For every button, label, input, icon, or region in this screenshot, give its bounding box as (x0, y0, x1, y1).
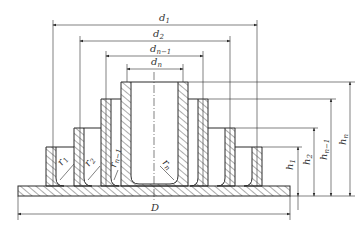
label-D: D (150, 202, 159, 213)
stepped-cup-drawing: d1 d2 dn−1 dn D h1 h2 hn−1 hn r1 r2 rn−1… (0, 0, 362, 234)
label-rn: rn (159, 157, 175, 173)
label-d1: d1 (159, 12, 170, 25)
label-hn-1: hn−1 (318, 139, 331, 160)
label-r1: r1 (55, 153, 71, 168)
label-hn: hn (337, 134, 350, 145)
label-h2: h2 (301, 154, 314, 165)
label-dn-1: dn−1 (150, 43, 171, 56)
label-dn: dn (151, 56, 162, 69)
label-h1: h1 (284, 159, 297, 170)
label-d2: d2 (153, 28, 164, 41)
step-n-walls (121, 82, 188, 186)
step-2-walls (74, 128, 235, 186)
